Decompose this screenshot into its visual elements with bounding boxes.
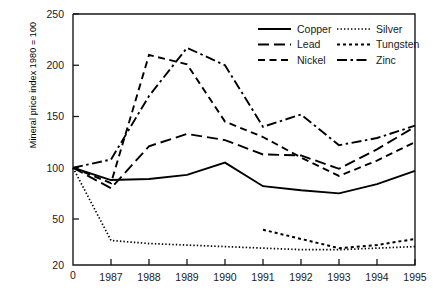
series-line-zinc xyxy=(73,48,415,168)
x-axis-tick-label: 1993 xyxy=(327,271,351,283)
x-axis-tick-label: 1991 xyxy=(251,271,275,283)
legend-label-zinc: Zinc xyxy=(376,54,396,66)
x-axis-tick-label: 1990 xyxy=(213,271,237,283)
legend-label-copper: Copper xyxy=(297,23,332,35)
y-axis-tick-label: 200 xyxy=(46,59,64,71)
x-axis-tick-label: 1992 xyxy=(289,271,313,283)
y-axis-tick-label: 100 xyxy=(46,162,64,174)
x-axis-tick-label: 1995 xyxy=(403,271,427,283)
y-axis-tick-label: 250 xyxy=(46,8,64,20)
legend-label-lead: Lead xyxy=(297,38,321,50)
y-axis-tick-label: 50 xyxy=(52,213,64,225)
legend-label-silver: Silver xyxy=(376,23,403,35)
legend-label-tungsten: Tungsten xyxy=(376,38,420,50)
series-line-nickel xyxy=(73,55,415,183)
x-axis-tick-label: 1988 xyxy=(137,271,161,283)
legend-label-nickel: Nickel xyxy=(297,54,326,66)
line-chart: 2050100150200250019871988198919901991199… xyxy=(0,0,442,294)
y-axis-tick-label: 150 xyxy=(46,110,64,122)
series-line-copper xyxy=(73,163,415,194)
x-axis-tick-label: 1987 xyxy=(99,271,123,283)
series-line-tungsten xyxy=(263,230,415,248)
x-axis-tick-label: 0 xyxy=(70,269,76,281)
chart-container: Mineral price index 1980 = 100 205010015… xyxy=(0,0,442,294)
x-axis-tick-label: 1989 xyxy=(175,271,199,283)
x-axis-tick-label: 1994 xyxy=(365,271,389,283)
y-axis-tick-label: 20 xyxy=(52,259,64,271)
